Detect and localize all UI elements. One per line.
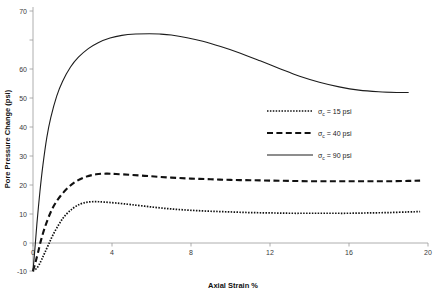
pore-pressure-chart: -10 0 10 20 30 40 50 60 70 0 4 8 12 16 2… <box>0 0 443 297</box>
x-tick-label-4: 4 <box>110 249 114 256</box>
y-tick-label-50: 50 <box>19 95 27 102</box>
y-tick-label-40: 40 <box>19 124 27 131</box>
x-axis-ticks <box>33 243 428 247</box>
y-tick-label-0: 0 <box>23 240 27 247</box>
chart-canvas: -10 0 10 20 30 40 50 60 70 0 4 8 12 16 2… <box>0 0 443 297</box>
y-tick-label-20: 20 <box>19 182 27 189</box>
x-tick-label-8: 8 <box>189 249 193 256</box>
legend-label-sigma-90: σc = 90 psi <box>318 152 352 161</box>
series-line-sigma-15 <box>33 202 420 271</box>
y-tick-label-10: 10 <box>19 211 27 218</box>
series-line-sigma-90 <box>33 34 408 271</box>
x-tick-label-12: 12 <box>266 249 274 256</box>
y-axis-title: Pore Pressure Change (psi) <box>3 89 12 188</box>
y-tick-label-60: 60 <box>19 66 27 73</box>
legend-label-sigma-40: σc = 40 psi <box>318 130 352 139</box>
chart-legend: σc = 15 psi σc = 40 psi σc = 90 psi <box>267 108 352 161</box>
legend-label-sigma-15: σc = 15 psi <box>318 108 352 117</box>
x-tick-label-20: 20 <box>424 249 432 256</box>
x-tick-label-16: 16 <box>345 249 353 256</box>
y-tick-label-30: 30 <box>19 153 27 160</box>
y-tick-label-neg10: -10 <box>17 268 27 275</box>
y-axis-ticks <box>30 11 34 271</box>
y-tick-label-70: 70 <box>19 8 27 15</box>
x-axis-title: Axial Strain % <box>208 281 258 290</box>
series-line-sigma-40 <box>33 174 420 271</box>
